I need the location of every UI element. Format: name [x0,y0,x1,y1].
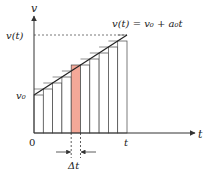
x-end-label: t [124,137,129,148]
vt-label: v(t) [6,30,24,41]
bar [34,95,43,133]
bar [90,59,99,133]
bar [118,41,127,133]
bar-group [34,35,127,133]
bar [81,65,90,133]
equation-label: v(t) = v₀ + a₀t [112,18,184,29]
bar [43,89,52,133]
bar [53,83,62,133]
x-axis-label: t [198,128,203,141]
origin-label: 0 [29,137,35,148]
highlighted-bar [71,65,80,133]
bar [62,77,71,133]
bar [108,47,117,133]
delta-t-label: Δt [67,160,80,171]
bar [99,53,108,133]
y-axis-label: v [31,2,38,15]
velocity-time-diagram: v t 0 t v₀ v(t) v(t) = v₀ + a₀t Δt [0,0,210,180]
v0-label: v₀ [16,90,26,101]
